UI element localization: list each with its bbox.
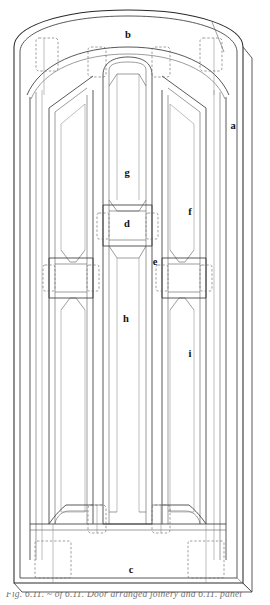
bottom-rail (30, 505, 226, 530)
part-label-c: c (129, 564, 134, 575)
part-label-a: a (230, 120, 236, 131)
figure-root: a b c d e f g h i Fig. 6.11. ~ of 6.11. … (0, 0, 270, 605)
part-label-b: b (125, 29, 131, 40)
part-label-g: g (124, 167, 130, 178)
part-labels: a b c d e f g h i (123, 29, 236, 575)
part-label-i: i (189, 348, 192, 359)
outer-frame (14, 10, 252, 592)
figure-caption: Fig. 6.11. ~ of 6.11. Door arranged join… (6, 592, 242, 599)
right-stile (214, 90, 226, 560)
part-label-e: e (153, 256, 158, 267)
door-construction-drawing: a b c d e f g h i (0, 0, 270, 605)
left-panel-group (49, 76, 93, 524)
hidden-joint-details (35, 38, 224, 583)
part-label-d: d (124, 218, 130, 229)
figure-caption-strip: Fig. 6.11. ~ of 6.11. Door arranged join… (0, 592, 270, 605)
left-stile (30, 90, 42, 560)
arched-head-rail (27, 47, 229, 99)
right-panel-group (162, 76, 206, 524)
centre-panel-group (103, 57, 152, 524)
part-label-f: f (188, 206, 192, 217)
part-label-h: h (123, 313, 129, 324)
